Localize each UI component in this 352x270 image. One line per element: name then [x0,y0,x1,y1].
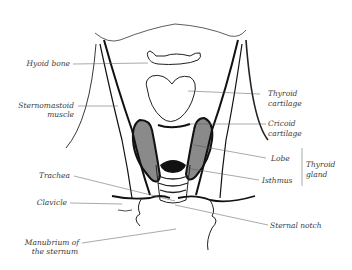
label-clavicle: Clavicle [20,198,67,207]
label-manubrium-line2: the sternum [6,247,78,256]
label-cricoid-cartilage-line1: Cricoid [268,119,296,128]
label-thyroid-gland-line2: gland [306,170,327,179]
label-sternomastoid-line1: Sternomastoid [6,101,74,110]
thyroid-cartilage-shape [146,75,195,121]
label-sternal-notch: Sternal notch [270,221,322,230]
label-hyoid-bone: Hyoid bone [14,59,70,68]
label-sternomastoid-line2: muscle [6,110,74,119]
anatomy-diagram: Hyoid bone Sternomastoid muscle Trachea … [0,0,352,270]
label-lobe: Lobe [271,154,290,163]
label-isthmus: Isthmus [262,176,292,185]
label-cricoid-cartilage-line2: cartilage [268,129,302,138]
cricoid-shape [158,124,190,127]
label-manubrium-line1: Manubrium of [6,238,79,247]
jaw-outline [95,24,246,41]
clavicle-left [112,196,170,199]
manubrium-outline [136,198,216,250]
label-thyroid-cartilage-line2: cartilage [268,99,302,108]
label-trachea: Trachea [20,171,70,180]
label-thyroid-cartilage-line1: Thyroid [268,89,297,98]
isthmus-shape [160,160,186,173]
trachea-rings [158,176,188,193]
hyoid-bone-shape [147,51,200,65]
label-thyroid-gland-line1: Thyroid [306,160,335,169]
clavicle-right [178,196,255,201]
